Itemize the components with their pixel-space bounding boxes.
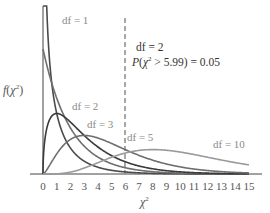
x-tick-0: 0 bbox=[40, 180, 46, 192]
chi-square-chart: 0123456789101112131415 df = 1 df = 2 df … bbox=[0, 0, 270, 213]
x-tick-5: 5 bbox=[109, 180, 115, 192]
x-tick-15: 15 bbox=[243, 180, 255, 192]
label-df1: df = 1 bbox=[62, 14, 88, 26]
label-df2: df = 2 bbox=[72, 100, 98, 112]
x-tick-2: 2 bbox=[68, 180, 74, 192]
y-axis-label: f(χ2) bbox=[3, 83, 23, 97]
label-df10: df = 10 bbox=[213, 138, 245, 150]
annotation-probability: P(χ2 > 5.99) = 0.05 bbox=[131, 55, 220, 69]
label-df5: df = 5 bbox=[127, 131, 154, 143]
x-tick-11: 11 bbox=[189, 180, 200, 192]
x-axis-label: χ2 bbox=[139, 195, 149, 209]
x-tick-12: 12 bbox=[202, 180, 213, 192]
label-df3: df = 3 bbox=[87, 118, 114, 130]
x-tick-4: 4 bbox=[95, 180, 101, 192]
x-tick-14: 14 bbox=[230, 180, 242, 192]
annotation-df: df = 2 bbox=[136, 41, 164, 53]
x-tick-8: 8 bbox=[150, 180, 156, 192]
x-tick-10: 10 bbox=[175, 180, 187, 192]
x-tick-1: 1 bbox=[54, 180, 60, 192]
x-tick-13: 13 bbox=[216, 180, 228, 192]
x-tick-9: 9 bbox=[164, 180, 170, 192]
x-tick-3: 3 bbox=[81, 180, 87, 192]
x-tick-labels: 0123456789101112131415 bbox=[40, 180, 255, 192]
x-tick-6: 6 bbox=[123, 180, 129, 192]
x-tick-7: 7 bbox=[136, 180, 142, 192]
